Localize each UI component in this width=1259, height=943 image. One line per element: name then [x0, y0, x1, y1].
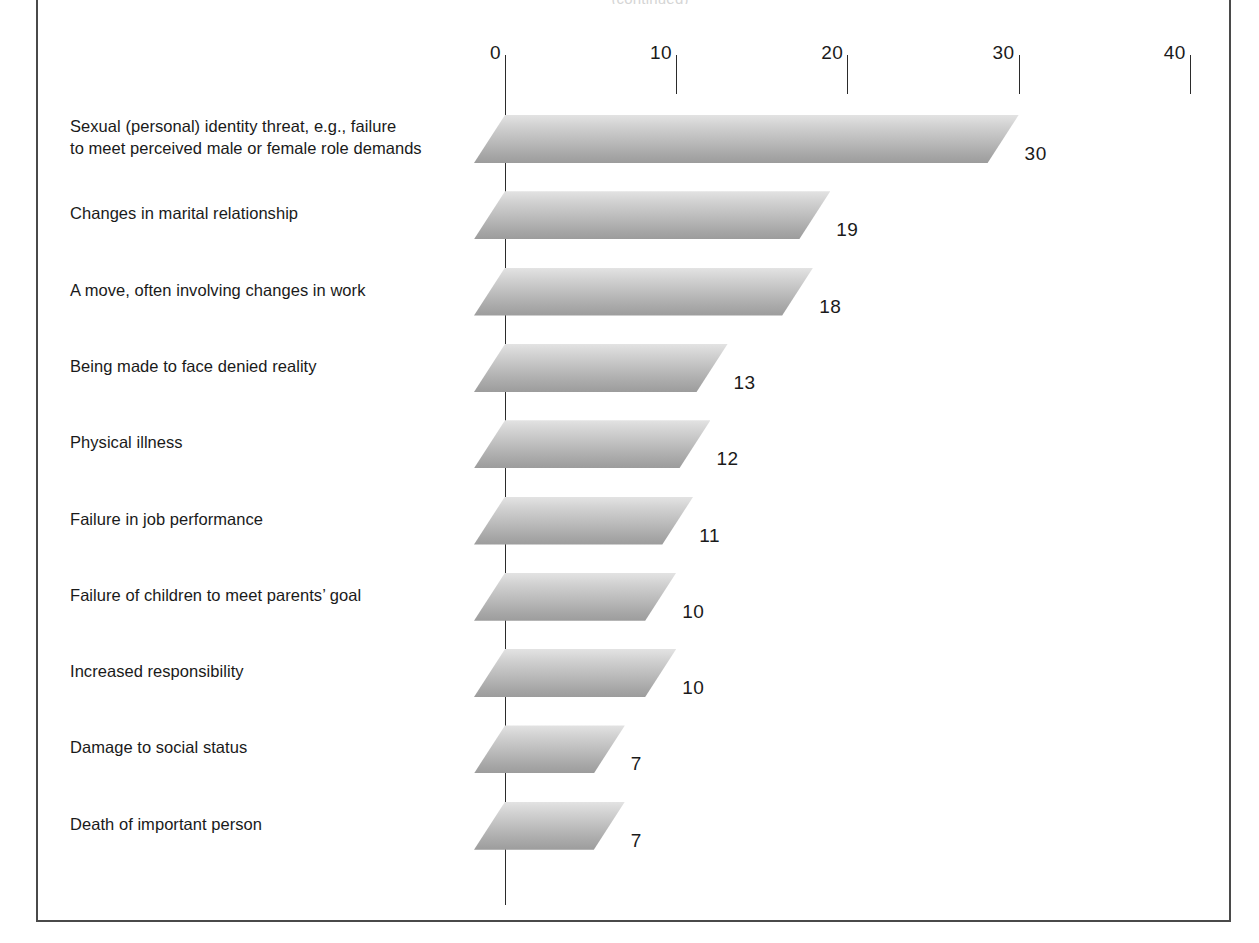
category-label-line: Damage to social status: [70, 736, 480, 758]
category-label: Being made to face denied reality: [70, 355, 480, 377]
x-axis-tick-label-40: 40: [1100, 42, 1186, 64]
category-label: Sexual (personal) identity threat, e.g.,…: [70, 115, 480, 160]
category-label: Increased responsibility: [70, 660, 480, 682]
bar-value-label: 7: [631, 830, 642, 852]
bar-chart-plot-area: 010203040 301918131211101077 Sexual (per…: [0, 0, 1259, 943]
bar-value-label: 19: [836, 219, 858, 241]
x-axis-tick-label-0: 0: [415, 42, 501, 64]
x-axis-tick-label-20: 20: [757, 42, 843, 64]
bar-value-label: 7: [631, 753, 642, 775]
bar-value-label: 30: [1025, 143, 1047, 165]
category-label: Physical illness: [70, 431, 480, 453]
category-label-line: Physical illness: [70, 431, 480, 453]
bar: [474, 802, 625, 850]
x-axis-tick-0: [505, 55, 506, 94]
category-label: Damage to social status: [70, 736, 480, 758]
bar-value-label: 11: [699, 525, 720, 547]
bar: [474, 573, 676, 621]
category-label: Death of important person: [70, 813, 480, 835]
category-label-line: A move, often involving changes in work: [70, 279, 480, 301]
bar: [474, 115, 1019, 163]
category-label-line: Increased responsibility: [70, 660, 480, 682]
bar-value-label: 10: [682, 601, 704, 623]
category-label-line: Being made to face denied reality: [70, 355, 480, 377]
x-axis-tick-20: [847, 55, 848, 94]
category-label: Changes in marital relationship: [70, 202, 480, 224]
category-label-line: Failure of children to meet parents’ goa…: [70, 584, 480, 606]
bar-value-label: 13: [734, 372, 756, 394]
bar: [474, 191, 830, 239]
category-label-line: Failure in job performance: [70, 508, 480, 530]
x-axis-tick-label-10: 10: [586, 42, 672, 64]
category-label-line: to meet perceived male or female role de…: [70, 137, 480, 159]
x-axis-tick-30: [1019, 55, 1020, 94]
x-axis-tick-label-30: 30: [929, 42, 1015, 64]
figure-container: (continued) 010203040 301918131211101077…: [0, 0, 1259, 943]
bar-value-label: 12: [716, 448, 738, 470]
bar: [474, 344, 728, 392]
bar: [474, 268, 813, 316]
category-label: Failure of children to meet parents’ goa…: [70, 584, 480, 606]
bar-value-label: 10: [682, 677, 704, 699]
category-label-line: Sexual (personal) identity threat, e.g.,…: [70, 115, 480, 137]
category-label-line: Changes in marital relationship: [70, 202, 480, 224]
bar: [474, 420, 710, 468]
bar: [474, 497, 693, 545]
bar: [474, 725, 625, 773]
category-label: A move, often involving changes in work: [70, 279, 480, 301]
bar-value-label: 18: [819, 296, 841, 318]
x-axis-tick-10: [676, 55, 677, 94]
category-label: Failure in job performance: [70, 508, 480, 530]
bar: [474, 649, 676, 697]
x-axis-tick-40: [1190, 55, 1191, 94]
category-label-line: Death of important person: [70, 813, 480, 835]
